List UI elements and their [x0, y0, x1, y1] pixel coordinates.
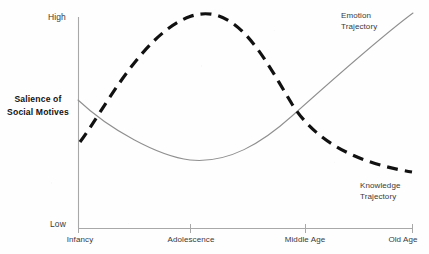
annotation-knowledge-line1: Knowledge	[360, 180, 401, 191]
annotation-knowledge-trajectory: Knowledge Trajectory	[360, 180, 401, 202]
chart-canvas: High Low Salience of Social Motives Infa…	[0, 0, 429, 254]
y-axis-low-label: Low	[50, 219, 66, 229]
y-axis-title-line1: Salience of	[2, 93, 74, 106]
annotation-emotion-line2: Trajectory	[341, 21, 377, 32]
x-tick-label-middle-age: Middle Age	[273, 235, 337, 244]
y-axis-high-label: High	[48, 12, 66, 22]
annotation-emotion-trajectory: Emotion Trajectory	[341, 10, 377, 32]
y-axis-title-line2: Social Motives	[2, 106, 74, 119]
y-axis-title: Salience of Social Motives	[2, 93, 74, 119]
chart-plot-area	[0, 0, 429, 254]
annotation-emotion-line1: Emotion	[341, 10, 377, 21]
series-emotion-trajectory	[78, 13, 413, 160]
x-tick-label-old-age: Old Age	[379, 235, 427, 244]
x-tick-label-infancy: Infancy	[56, 235, 104, 244]
x-tick-label-adolescence: Adolescence	[155, 235, 227, 244]
annotation-knowledge-line2: Trajectory	[360, 191, 401, 202]
